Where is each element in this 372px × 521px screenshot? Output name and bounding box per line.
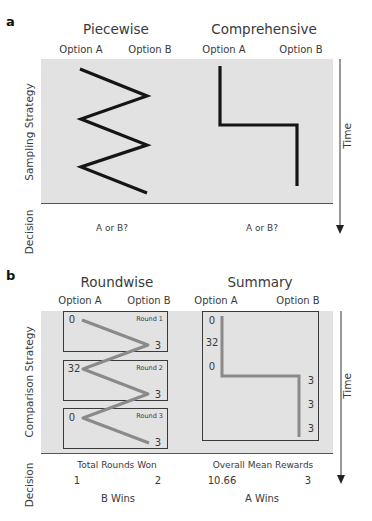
comparison-strategy-area — [41, 311, 333, 453]
roundwise-result: B Wins — [101, 493, 135, 504]
summary-result: A Wins — [245, 493, 279, 504]
a-right-decision: A or B? — [246, 223, 278, 233]
summary-b-value-1: 3 — [308, 375, 314, 386]
b-right-option-a: Option A — [194, 295, 238, 306]
round-1-b-value: 3 — [155, 340, 161, 351]
sampling-strategy-area — [41, 59, 333, 203]
a-left-option-b: Option B — [128, 44, 172, 55]
a-right-option-a: Option A — [202, 44, 246, 55]
summary-b-value-2: 3 — [308, 399, 314, 410]
round-3-a-value: 0 — [69, 412, 75, 423]
summary-a-value-3: 0 — [209, 361, 215, 372]
round-2-b-value: 3 — [155, 389, 161, 400]
a-sampling-strategy-label: Sampling Strategy — [23, 83, 35, 180]
b-comparison-strategy-label: Comparison Strategy — [23, 326, 35, 437]
b-decision-label: Decision — [23, 463, 35, 508]
b-time-label: Time — [341, 373, 353, 400]
rounds-won-a: 1 — [74, 475, 80, 486]
summary-a-value-2: 32 — [206, 337, 219, 348]
b-right-option-b: Option B — [276, 295, 320, 306]
b-left-option-b: Option B — [127, 295, 171, 306]
mean-reward-b: 3 — [305, 475, 311, 486]
a-right-option-b: Option B — [279, 44, 323, 55]
mean-reward-a: 10.66 — [208, 475, 237, 486]
a-left-option-a: Option A — [59, 44, 103, 55]
piecewise-title: Piecewise — [83, 21, 149, 37]
a-time-label: Time — [341, 123, 353, 150]
rounds-won-b: 2 — [155, 475, 161, 486]
a-time-arrow-icon — [336, 225, 344, 234]
round-2-a-value: 32 — [68, 363, 81, 374]
b-time-arrow-icon — [337, 475, 345, 484]
roundwise-title: Roundwise — [81, 274, 154, 290]
round-3-label: Round 3 — [136, 412, 163, 420]
a-decision-label: Decision — [23, 210, 35, 255]
figure: a Piecewise Comprehensive Option A Optio… — [0, 0, 372, 521]
round-3-b-value: 3 — [155, 437, 161, 448]
round-1-label: Round 1 — [136, 315, 163, 323]
b-left-option-a: Option A — [58, 295, 102, 306]
panel-b-label: b — [6, 268, 15, 283]
a-left-decision: A or B? — [96, 223, 128, 233]
overall-mean-rewards-title: Overall Mean Rewards — [213, 460, 314, 470]
total-rounds-won-title: Total Rounds Won — [76, 460, 157, 470]
summary-a-value-1: 0 — [209, 315, 215, 326]
round-1-a-value: 0 — [69, 314, 75, 325]
panel-a-label: a — [6, 14, 15, 29]
summary-title: Summary — [227, 274, 292, 290]
summary-b-value-3: 3 — [308, 423, 314, 434]
comprehensive-title: Comprehensive — [211, 21, 316, 37]
round-2-label: Round 2 — [136, 364, 163, 372]
